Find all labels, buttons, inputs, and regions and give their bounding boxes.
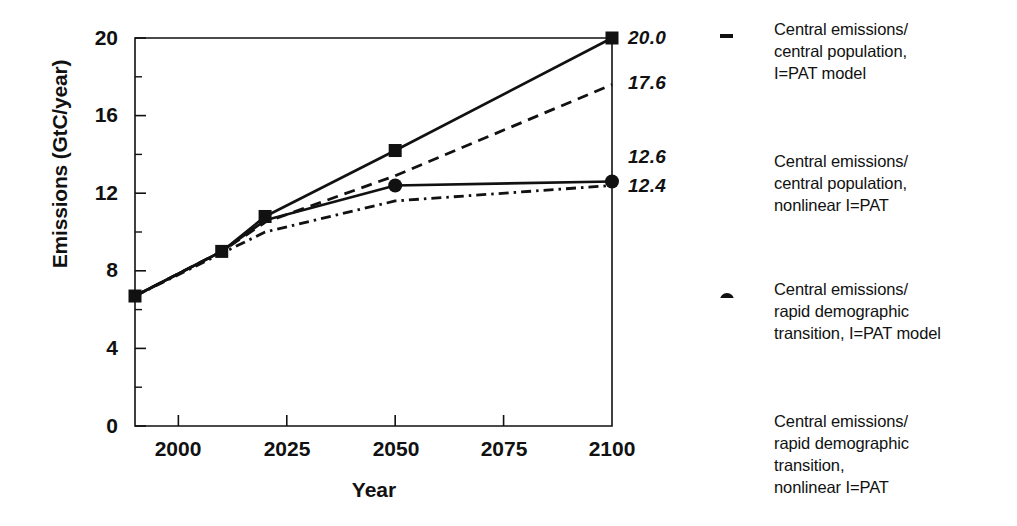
legend-entry-2: Central emissions/ rapid demographic tra… xyxy=(690,278,1017,344)
y-axis-ticks xyxy=(135,38,146,426)
series-line-3 xyxy=(135,185,612,296)
plot-canvas xyxy=(0,0,680,526)
series-2-marker xyxy=(388,178,402,192)
solid-circle-line-sample xyxy=(690,278,764,298)
series-line-2 xyxy=(135,182,612,296)
series-0-marker xyxy=(259,210,272,223)
x-axis-ticks xyxy=(178,415,503,426)
data-series-group xyxy=(135,38,612,296)
legend-entry-0: Central emissions/ central population, I… xyxy=(690,18,1017,84)
solid-square-line-sample xyxy=(690,18,764,38)
legend-entry-1: Central emissions/ central population, n… xyxy=(690,150,1017,216)
legend-label-0: Central emissions/ central population, I… xyxy=(774,18,908,84)
legend-entry-3: Central emissions/ rapid demographic tra… xyxy=(690,410,1017,498)
chart-legend: Central emissions/ central population, I… xyxy=(690,0,1017,526)
chart-page: Emissions (GtC/year) Year 20 16 12 8 4 0… xyxy=(0,0,1017,526)
series-2-marker xyxy=(605,175,619,189)
series-0-marker xyxy=(606,32,619,45)
chart-region: Emissions (GtC/year) Year 20 16 12 8 4 0… xyxy=(0,0,680,526)
legend-label-1: Central emissions/ central population, n… xyxy=(774,150,908,216)
dashdot-line-sample xyxy=(690,410,764,430)
legend-label-3: Central emissions/ rapid demographic tra… xyxy=(774,410,909,498)
plot-frame xyxy=(135,38,612,426)
series-0-marker xyxy=(389,144,402,157)
series-0-marker xyxy=(129,290,142,303)
legend-label-2: Central emissions/ rapid demographic tra… xyxy=(774,278,941,344)
series-line-0 xyxy=(135,38,612,296)
axes-frame xyxy=(135,38,612,426)
series-0-marker xyxy=(215,245,228,258)
dashed-line-sample xyxy=(690,150,764,170)
